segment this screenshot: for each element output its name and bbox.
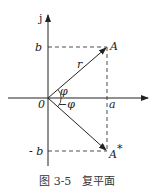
- label-phi: φ: [60, 85, 68, 98]
- complex-plane-diagram: j b - b 0 a A A * r φ −φ: [0, 0, 154, 192]
- label-neg-b: - b: [29, 145, 43, 158]
- vector-A-conjugate: [48, 98, 106, 150]
- label-a: a: [109, 98, 116, 111]
- vector-A: [48, 48, 106, 98]
- label-b: b: [35, 41, 42, 54]
- label-neg-phi: −φ: [58, 98, 75, 111]
- imag-axis-label: j: [37, 12, 42, 25]
- label-r: r: [77, 58, 83, 71]
- figure-caption: 图 3-5 复平面: [0, 172, 154, 188]
- label-A-conj-star: *: [117, 142, 123, 155]
- label-A: A: [109, 40, 118, 53]
- figure-number: 图 3-5: [39, 175, 71, 188]
- origin-label: 0: [38, 98, 45, 111]
- figure-title: 复平面: [82, 175, 115, 188]
- label-A-conj: A: [108, 148, 117, 161]
